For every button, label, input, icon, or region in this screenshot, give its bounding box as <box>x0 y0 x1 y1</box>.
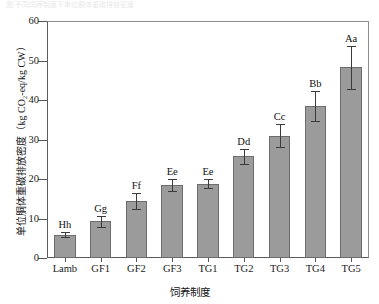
error-bar-cap <box>132 193 141 194</box>
error-bar-cap <box>311 91 320 92</box>
error-bar-cap <box>240 149 249 150</box>
error-bar-cap <box>61 237 70 238</box>
error-bar <box>244 149 245 165</box>
y-axis-title-unit: （kg CO₂-eq/kg CW） <box>16 41 27 135</box>
significance-label: Hh <box>45 219 85 230</box>
significance-label: Gg <box>81 203 121 214</box>
caption-fragment: 图 不同饲养制度下单位胴体重碳排放密度 <box>6 0 246 10</box>
bar <box>305 106 326 258</box>
y-axis-title-text: 单位胴体重碳排放密度 <box>16 136 27 236</box>
error-bar-cap <box>204 188 213 189</box>
error-bar <box>280 124 281 147</box>
significance-label: Dd <box>224 136 264 147</box>
error-bar <box>101 216 102 227</box>
y-axis-title: 单位胴体重碳排放密度（kg CO₂-eq/kg CW） <box>13 15 28 263</box>
error-bar-cap <box>347 89 356 90</box>
y-tick <box>38 21 47 22</box>
y-tick <box>38 258 47 259</box>
error-bar-cap <box>168 179 177 180</box>
bar <box>197 184 218 258</box>
significance-label: Cc <box>260 111 300 122</box>
chart-figure: 图 不同饲养制度下单位胴体重碳排放密度 0102030405060 LambGF… <box>0 0 379 304</box>
x-axis-title: 饲养制度 <box>0 284 379 299</box>
error-bar-cap <box>97 216 106 217</box>
significance-label: Ee <box>152 166 192 177</box>
y-tick <box>38 179 47 180</box>
error-bar <box>136 193 137 209</box>
significance-label: Bb <box>295 78 335 89</box>
error-bar <box>208 179 209 188</box>
significance-label: Ff <box>116 180 156 191</box>
error-bar-cap <box>311 121 320 122</box>
x-tick-label: TG5 <box>326 262 376 275</box>
error-bar-cap <box>240 164 249 165</box>
error-bar-cap <box>168 191 177 192</box>
y-tick <box>38 100 47 101</box>
error-bar-cap <box>97 227 106 228</box>
bar <box>161 185 182 258</box>
significance-label: Aa <box>331 33 371 44</box>
bar <box>269 136 290 258</box>
bar <box>340 67 361 258</box>
bar <box>233 156 254 258</box>
y-tick <box>38 61 47 62</box>
error-bar-cap <box>204 179 213 180</box>
significance-label: Ee <box>188 166 228 177</box>
error-bar-cap <box>347 46 356 47</box>
error-bar-cap <box>276 124 285 125</box>
error-bar-cap <box>276 147 285 148</box>
error-bar-cap <box>132 209 141 210</box>
error-bar <box>172 179 173 191</box>
y-tick <box>38 140 47 141</box>
error-bar <box>351 46 352 89</box>
error-bar-cap <box>61 232 70 233</box>
error-bar <box>315 91 316 121</box>
